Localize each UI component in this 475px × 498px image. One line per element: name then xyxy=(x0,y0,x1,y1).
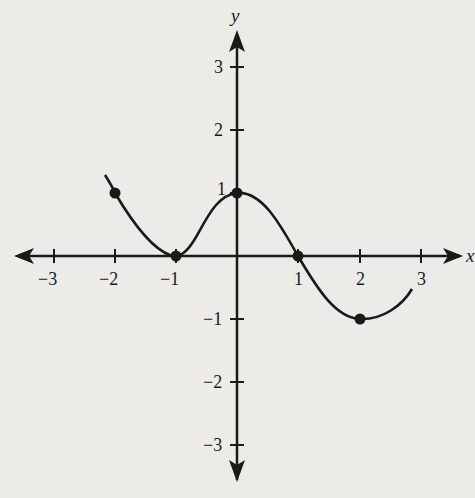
x-tick-label: 2 xyxy=(356,270,365,288)
y-tick-label: 2 xyxy=(214,121,223,139)
y-axis-label: y xyxy=(231,6,239,25)
point-1-0 xyxy=(293,251,304,262)
y-tick-label: −1 xyxy=(203,310,222,328)
x-tick-label: −1 xyxy=(160,270,179,288)
coordinate-plane xyxy=(0,0,475,498)
point-2-neg1 xyxy=(355,314,366,325)
x-axis-label: x xyxy=(466,246,474,265)
y-tick-label: −3 xyxy=(203,436,222,454)
y-tick-label: 1 xyxy=(217,180,226,198)
x-tick-label: 3 xyxy=(417,270,426,288)
x-tick-label: 1 xyxy=(294,270,303,288)
function-curve xyxy=(105,175,412,319)
point-neg1-0 xyxy=(171,251,182,262)
point-neg2-1 xyxy=(110,188,121,199)
x-tick-label: −2 xyxy=(99,270,118,288)
y-tick-label: −2 xyxy=(203,373,222,391)
point-0-1 xyxy=(232,188,243,199)
x-tick-label: −3 xyxy=(38,270,57,288)
graph-figure: y x −3 −2 −1 1 2 3 3 2 1 −1 −2 −3 xyxy=(0,0,475,498)
y-tick-label: 3 xyxy=(214,58,223,76)
